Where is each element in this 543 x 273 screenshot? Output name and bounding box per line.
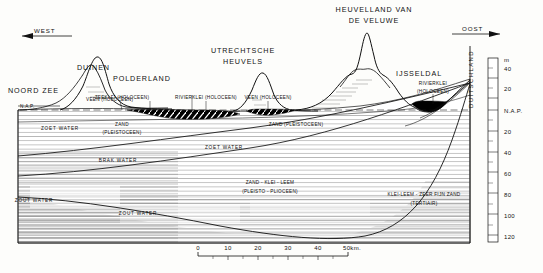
label-zand-pleistoceen-right: ZAND (PLEISTOCEEN) xyxy=(269,122,324,127)
label-brak-water: BRAK WATER xyxy=(99,158,137,163)
label-duinen: DUINEN xyxy=(77,63,110,72)
vscale-tick-8: 120 xyxy=(504,234,515,240)
label-veen-left: VEEN (HOLOCEEN) xyxy=(86,97,133,102)
label-zout-water-mid: ZOUT WATER xyxy=(119,211,157,216)
label-noordzee: NOORD ZEE xyxy=(8,86,59,95)
veluwe-profile-inner xyxy=(340,69,390,88)
label-zout-water-left: ZOUT WATER xyxy=(15,198,53,203)
label-zand-klei-leem-2: (PLEISTO - PLIOCEEN) xyxy=(242,189,298,194)
hscale-tick-4: 40 xyxy=(314,245,322,251)
title-utrecht-line1: UTRECHTSCHE xyxy=(211,46,275,55)
subsurface-body xyxy=(18,79,470,250)
utrecht-hill-profile xyxy=(233,73,318,111)
label-veen-right: VEEN (HOLOCEEN) xyxy=(244,95,291,100)
label-zoet-water-mid: ZOET WATER xyxy=(205,145,243,150)
title-utrecht-line2: HEUVELS xyxy=(223,57,263,66)
label-zand-klei-leem-1: ZAND - KLEI - LEEM xyxy=(246,180,295,185)
vertical-scale-bar xyxy=(488,58,498,242)
label-rivierklei-mid: RIVIERKLEI (HOLOCEEN) xyxy=(175,95,237,100)
vscale-tick-4: 40 xyxy=(504,150,512,156)
label-west: WEST xyxy=(34,27,55,34)
vscale-tick-1: 20 xyxy=(504,86,512,92)
utrecht-hill-hatching xyxy=(252,100,266,105)
hscale-tick-1: 10 xyxy=(224,245,232,251)
geological-cross-section-figure: WEST OOST HEUVELLAND VAN DE VELUWE UTREC… xyxy=(0,0,543,273)
label-tertiair-1: KLEI-LEEM - ZEER FIJN ZAND xyxy=(388,192,461,197)
vscale-tick-5: 60 xyxy=(504,171,512,177)
label-rivierklei-ijssel-line1: RIVIERKLEI xyxy=(419,81,447,86)
cross-section-canvas: WEST OOST HEUVELLAND VAN DE VELUWE UTREC… xyxy=(0,0,543,273)
label-tertiair-2: (TERTIAIR) xyxy=(411,201,438,206)
vscale-tick-7: 100 xyxy=(504,213,515,219)
label-ijsseldal: IJSSELDAL xyxy=(396,69,442,78)
vscale-tick-3: 20 xyxy=(504,129,512,135)
hscale-tick-2: 20 xyxy=(254,245,262,251)
label-polderland: POLDERLAND xyxy=(113,74,171,83)
label-duitschland: DUITSCHLAND xyxy=(468,50,474,108)
hscale-tick-0: 0 xyxy=(196,245,200,251)
vscale-unit: m xyxy=(504,57,509,63)
horizontal-scale-bar xyxy=(198,252,348,260)
vscale-tick-2: N.A.P. xyxy=(504,108,522,114)
label-zand-pleistoceen-left-1: ZAND xyxy=(115,122,129,127)
label-zoet-water-left: ZOET WATER xyxy=(41,126,79,131)
hscale-tick-5: 50km. xyxy=(343,245,361,251)
hscale-tick-3: 30 xyxy=(284,245,292,251)
title-veluwe-line2: DE VELUWE xyxy=(349,16,399,25)
label-rivierklei-ijssel-line2: (HOLOCEEN) xyxy=(417,89,449,94)
label-oost: OOST xyxy=(462,25,483,32)
label-nap-left: N.A.P. xyxy=(20,104,34,109)
label-zand-pleistoceen-left-2: (PLEISTOCEEN) xyxy=(102,130,141,135)
vscale-tick-0: 40 xyxy=(504,66,512,72)
title-veluwe-line1: HEUVELLAND VAN xyxy=(336,5,413,14)
vscale-tick-6: 80 xyxy=(504,192,512,198)
